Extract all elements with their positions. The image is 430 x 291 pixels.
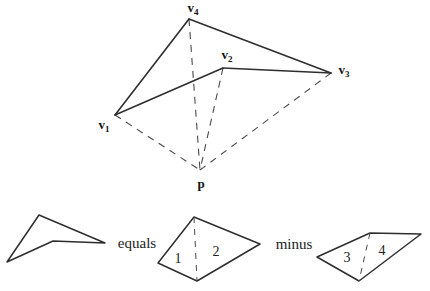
- minuend-shape-region-label-2: 2: [213, 244, 220, 259]
- solid-edge-v1-v2: [115, 68, 223, 115]
- dashed-edge-v2-p: [200, 68, 223, 170]
- dashed-edge-v3-p: [200, 73, 331, 170]
- dashed-edge-v4-p: [189, 19, 200, 170]
- minuend-shape-divider: [194, 217, 197, 281]
- dashed-edge-v1-p: [115, 115, 200, 170]
- result-shape: [7, 215, 105, 262]
- apex-label-p: p: [197, 176, 204, 191]
- subtrahend-shape-region-label-3: 3: [344, 250, 351, 265]
- vertex-label-v3: v3: [339, 62, 351, 79]
- tetrahedron-decomposition-diagram: v1v2v3v4p1234equalsminus: [0, 0, 430, 291]
- solid-edge-v2-v3: [223, 68, 331, 73]
- subtrahend-shape: [317, 233, 421, 281]
- vertex-label-v4: v4: [188, 0, 200, 17]
- solid-edge-v1-v4: [115, 19, 189, 115]
- operator-label-minus: minus: [276, 236, 313, 252]
- vertex-label-v2: v2: [222, 47, 234, 64]
- operator-label-equals: equals: [118, 235, 156, 251]
- diagram-canvas: v1v2v3v4p1234equalsminus: [0, 0, 430, 291]
- vertex-label-v1: v1: [99, 117, 111, 134]
- solid-edge-v4-v3: [189, 19, 331, 73]
- minuend-shape: [158, 217, 260, 281]
- minuend-shape-region-label-1: 1: [175, 251, 182, 266]
- subtrahend-shape-region-label-4: 4: [379, 243, 386, 258]
